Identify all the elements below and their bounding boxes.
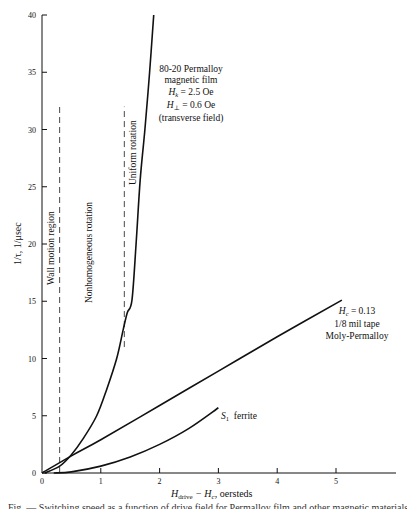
moly-hc: Hc = 0.13 [338, 306, 376, 317]
moly-annotation: Hc = 0.13 1/8 mil tape Moly-Permalloy [326, 306, 389, 341]
permalloy-annotation: 80-20 Permalloy magnetic film Hk = 2.5 O… [159, 64, 224, 124]
y-tick-label: 20 [28, 240, 36, 249]
y-tick-label: 35 [28, 68, 36, 77]
series-curve [45, 15, 154, 473]
y-tick-label: 15 [28, 297, 36, 306]
wall-motion-label: Wall motion region [46, 211, 56, 285]
chart: 0510152025303540 012345 Wall motion regi… [0, 0, 407, 509]
nonhomogeneous-label: Nonhomogeneous rotation [84, 202, 94, 303]
x-tick-label: 5 [334, 477, 338, 486]
caption-text: Fig. — Switching speed as a function of … [0, 503, 407, 509]
x-tick-labels: 012345 [40, 477, 338, 486]
figure-caption-fragment: Fig. — Switching speed as a function of … [0, 503, 407, 509]
x-ticks [101, 468, 336, 473]
permalloy-line1: 80-20 Permalloy [159, 64, 223, 74]
moly-line2: 1/8 mil tape [334, 319, 379, 329]
y-tick-label: 10 [28, 355, 36, 364]
y-tick-label: 40 [28, 11, 36, 20]
x-tick-label: 3 [216, 477, 220, 486]
permalloy-hk: Hk = 2.5 Oe [167, 87, 213, 98]
y-tick-label: 30 [28, 126, 36, 135]
x-tick-label: 4 [275, 477, 279, 486]
y-tick-labels: 0510152025303540 [28, 11, 36, 478]
ferrite-label: S1 ferrite [221, 411, 257, 422]
series-curve [54, 408, 219, 473]
permalloy-line5: (transverse field) [159, 113, 224, 124]
x-axis-title: Hdrive − Hc, oersteds [170, 488, 253, 501]
uniform-rotation-label: Uniform rotation [128, 120, 138, 185]
x-tick-label: 0 [40, 477, 44, 486]
y-axis-title: 1/τ, 1/μsec [12, 222, 23, 265]
y-tick-label: 5 [32, 412, 36, 421]
axes [42, 15, 396, 473]
moly-line3: Moly-Permalloy [326, 331, 389, 341]
x-tick-label: 1 [99, 477, 103, 486]
permalloy-hperp: H⊥ = 0.6 Oe [166, 100, 215, 111]
x-tick-label: 2 [158, 477, 162, 486]
y-tick-label: 25 [28, 183, 36, 192]
permalloy-line2: magnetic film [164, 75, 218, 85]
series-curve [42, 300, 342, 473]
y-tick-label: 0 [32, 469, 36, 478]
